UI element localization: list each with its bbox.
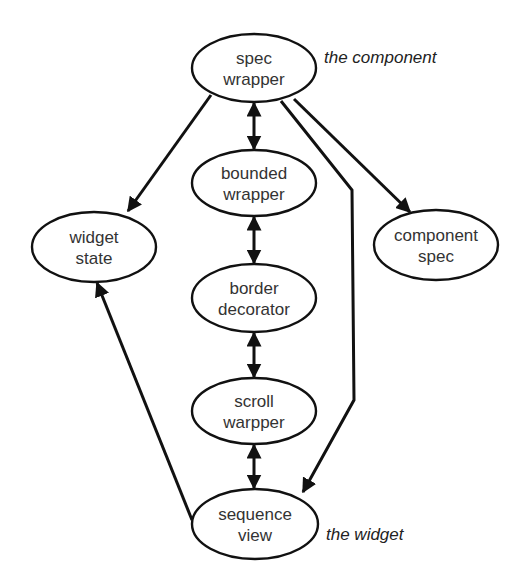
node-component-spec: componentspec bbox=[374, 210, 498, 280]
node-label: wrapper bbox=[222, 185, 285, 204]
node-ellipse bbox=[192, 489, 318, 559]
annotation-widget-label: the widget bbox=[326, 525, 405, 544]
node-label: sequence bbox=[218, 505, 292, 524]
diagram-canvas: specwrapperboundedwrapperborderdecorator… bbox=[0, 0, 522, 586]
node-label: scroll bbox=[234, 392, 274, 411]
node-label: bounded bbox=[221, 164, 287, 183]
annotations-layer: the componentthe widget bbox=[324, 48, 438, 544]
node-label: view bbox=[238, 526, 273, 545]
node-ellipse bbox=[192, 34, 316, 102]
node-ellipse bbox=[192, 378, 316, 444]
node-label: spec bbox=[418, 247, 454, 266]
node-ellipse bbox=[192, 264, 316, 332]
node-label: warpper bbox=[222, 413, 285, 432]
node-ellipse bbox=[374, 210, 498, 280]
node-widget-state: widgetstate bbox=[32, 212, 156, 282]
node-ellipse bbox=[32, 212, 156, 282]
node-label: wrapper bbox=[222, 70, 285, 89]
node-scroll-warpper: scrollwarpper bbox=[192, 378, 316, 444]
node-spec-wrapper: specwrapper bbox=[192, 34, 316, 102]
node-label: border bbox=[229, 279, 278, 298]
node-ellipse bbox=[192, 150, 316, 216]
node-label: state bbox=[76, 249, 113, 268]
node-label: decorator bbox=[218, 300, 290, 319]
node-sequence-view: sequenceview bbox=[192, 489, 318, 559]
annotation-component-label: the component bbox=[324, 48, 438, 67]
node-label: spec bbox=[236, 49, 272, 68]
node-bounded-wrapper: boundedwrapper bbox=[192, 150, 316, 216]
edge-sequence-view-to-widget-state bbox=[97, 283, 192, 520]
node-label: component bbox=[394, 226, 478, 245]
node-label: widget bbox=[68, 228, 118, 247]
node-border-decorator: borderdecorator bbox=[192, 264, 316, 332]
